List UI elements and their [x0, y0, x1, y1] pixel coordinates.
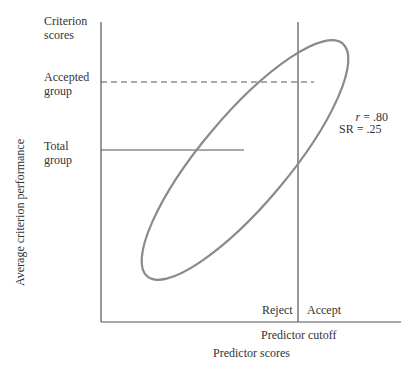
y-axis-label: Average criterion performance	[13, 133, 28, 293]
accept-label: Accept	[307, 303, 341, 317]
criterion-scores-line1: Criterion	[44, 14, 87, 28]
total-group-line2: group	[44, 153, 72, 167]
diagram-canvas	[0, 0, 419, 371]
criterion-scores-line2: scores	[44, 28, 87, 42]
reject-label: Reject	[262, 303, 293, 317]
scatter-ellipse	[114, 15, 377, 304]
predictor-cutoff-label: Predictor cutoff	[261, 328, 336, 342]
x-axis-label: Predictor scores	[213, 346, 290, 360]
total-group-line1: Total	[44, 139, 72, 153]
total-group-label: Total group	[44, 139, 72, 167]
accepted-group-line1: Accepted	[44, 70, 89, 84]
accepted-group-line2: group	[44, 84, 89, 98]
accepted-group-label: Accepted group	[44, 70, 89, 98]
selection-ratio-label: SR = .25	[339, 122, 381, 136]
criterion-scores-label: Criterion scores	[44, 14, 87, 42]
